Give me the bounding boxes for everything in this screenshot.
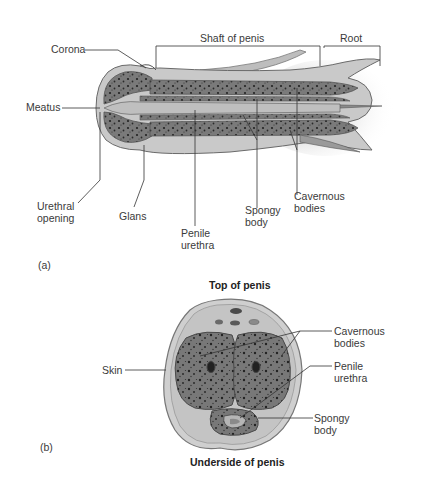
label-meatus: Meatus [26,101,60,113]
cross-section [164,299,302,450]
caption-top: Top of penis [209,279,271,291]
label-penile-urethra-b: Penile urethra [334,360,367,384]
label-spongy-body-a: Spongy body [245,204,281,228]
label-cavernous-bodies-b: Cavernous bodies [334,325,385,349]
label-spongy-body-b: Spongy body [314,412,350,436]
label-glans: Glans [119,210,146,222]
panel-label-b: (b) [40,441,53,453]
anatomy-diagram [0,0,431,483]
label-corona: Corona [51,43,85,55]
caption-bottom: Underside of penis [190,456,285,468]
label-cavernous-bodies-a: Cavernous bodies [294,190,345,214]
label-penile-urethra-a: Penile urethra [181,227,214,251]
panel-label-a: (a) [38,259,51,271]
longitudinal-section [96,50,395,156]
label-shaft: Shaft of penis [200,32,264,44]
label-root: Root [340,32,362,44]
label-skin: Skin [102,364,122,376]
label-urethral-opening: Urethral opening [37,200,74,224]
